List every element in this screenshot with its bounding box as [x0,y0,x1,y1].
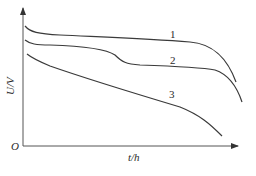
curve-1-label: 1 [170,28,176,40]
curve-1 [25,26,236,82]
curve-3 [27,54,222,136]
x-axis-label: t/h [128,151,140,163]
discharge-chart: 1 2 3 U/V t/h O [0,0,256,176]
origin-label: O [11,140,19,152]
curve-2-label: 2 [170,54,176,66]
curve-3-label: 3 [169,88,175,100]
y-axis-label: U/V [4,76,16,95]
